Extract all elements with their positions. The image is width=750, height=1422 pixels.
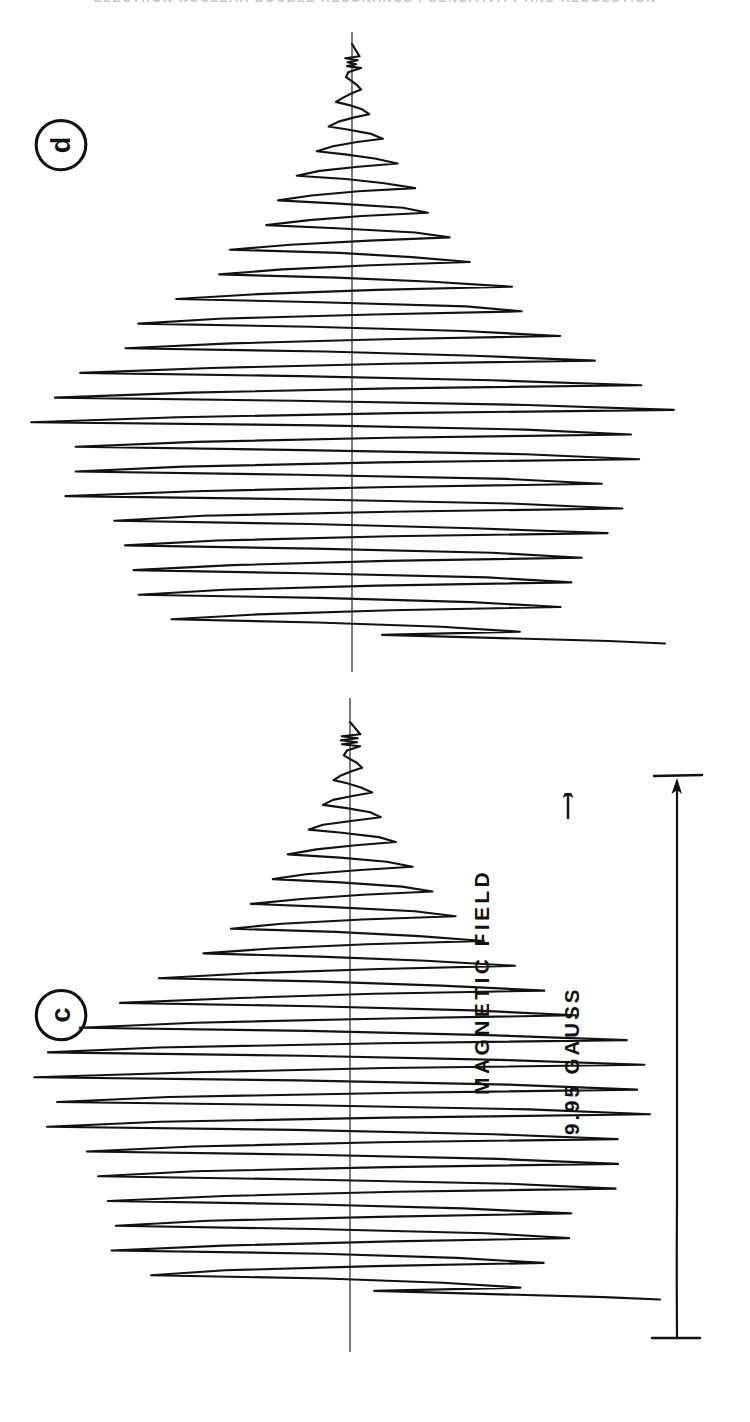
spectrum-panel-d <box>0 22 750 682</box>
panel-letter-text-d: d <box>34 118 88 172</box>
gauss-scale-bar <box>640 760 710 1360</box>
magnetic-field-arrow-icon <box>536 793 600 819</box>
panel-label-d: d <box>34 118 88 172</box>
magnetic-field-axis-label: MAGNETIC FIELD <box>470 869 494 1095</box>
running-head: ELECTRON-NUCLEAR DOUBLE RESONANCE : SENS… <box>0 0 750 5</box>
scale-bar-value-label: 9.95 GAUSS <box>560 987 584 1136</box>
spectrum-panel-c <box>0 690 750 1370</box>
spectrum-trace-d <box>0 22 750 682</box>
figure-page: ELECTRON-NUCLEAR DOUBLE RESONANCE : SENS… <box>0 0 750 1422</box>
spectrum-trace-c <box>0 690 750 1370</box>
panel-label-c: c <box>34 988 88 1042</box>
panel-letter-text-c: c <box>34 988 88 1042</box>
